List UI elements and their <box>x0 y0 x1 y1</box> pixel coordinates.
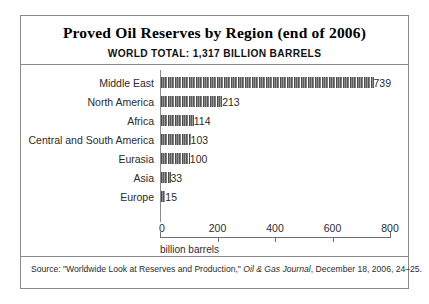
category-label: Middle East <box>21 77 159 89</box>
category-label: Asia <box>21 172 159 184</box>
category-label: Central and South America <box>21 134 159 146</box>
category-label: Eurasia <box>21 153 159 165</box>
axis-tick-label: 400 <box>266 222 284 234</box>
value-axis: 0200400600800 billion barrels <box>21 222 408 256</box>
category-label: North America <box>21 96 159 108</box>
bar-row: Central and South America103 <box>21 130 408 149</box>
bar-rows: Middle East739North America213Africa114C… <box>21 73 408 206</box>
category-label: Africa <box>21 115 159 127</box>
figure-header: Proved Oil Reserves by Region (end of 20… <box>21 16 408 70</box>
axis-cap-right <box>390 232 391 238</box>
bar-row: Africa114 <box>21 111 408 130</box>
bar-container: 15 <box>159 187 408 206</box>
source-publication: Oil & Gas Journal <box>243 264 310 274</box>
bar-value-label: 100 <box>190 153 208 165</box>
bar-value-label: 103 <box>191 134 209 146</box>
bar <box>161 172 171 183</box>
bar-value-label: 114 <box>194 115 211 127</box>
bar-row: North America213 <box>21 92 408 111</box>
chart-subtitle: WORLD TOTAL: 1,317 BILLION BARRELS <box>21 48 408 59</box>
bar-row: Europe15 <box>21 187 408 206</box>
bar-container: 114 <box>159 111 408 130</box>
bar <box>161 115 194 126</box>
bar-value-label: 739 <box>374 77 392 89</box>
chart-title: Proved Oil Reserves by Region (end of 20… <box>21 24 408 42</box>
bar-container: 103 <box>159 130 408 149</box>
source-note: Source: "Worldwide Look at Reserves and … <box>21 257 408 274</box>
bar-row: Eurasia100 <box>21 149 408 168</box>
header-divider <box>21 64 408 65</box>
source-prefix: Source: "Worldwide Look at Reserves and … <box>31 264 243 274</box>
bar-value-label: 33 <box>171 172 183 184</box>
bar-container: 213 <box>159 92 408 111</box>
source-suffix: , December 18, 2006, 24–25. <box>311 264 422 274</box>
bar-container: 739 <box>159 73 408 92</box>
bar <box>161 96 222 107</box>
bar <box>161 153 190 164</box>
figure-frame: Proved Oil Reserves by Region (end of 20… <box>20 15 409 289</box>
bar-container: 100 <box>159 149 408 168</box>
bar-container: 33 <box>159 168 408 187</box>
axis-tick-label: 200 <box>209 222 227 234</box>
bar-value-label: 213 <box>222 96 240 108</box>
bar <box>161 77 374 88</box>
bar-value-label: 15 <box>165 191 177 203</box>
bar-row: Asia33 <box>21 168 408 187</box>
bar-row: Middle East739 <box>21 73 408 92</box>
axis-tick-labels: 0200400600800 <box>21 222 408 236</box>
axis-tick-mark <box>218 237 219 242</box>
bar <box>161 134 191 145</box>
plot-area: Middle East739North America213Africa114C… <box>21 70 408 222</box>
axis-tick-mark <box>333 237 334 242</box>
category-label: Europe <box>21 191 159 203</box>
axis-units-label: billion barrels <box>160 244 219 255</box>
axis-tick-mark <box>275 237 276 242</box>
axis-cap-left <box>160 232 161 238</box>
axis-tick-label: 600 <box>324 222 342 234</box>
